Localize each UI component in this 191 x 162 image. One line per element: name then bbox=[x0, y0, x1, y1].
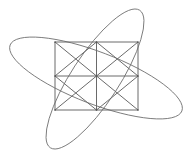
vertex-bottom-mid bbox=[96, 109, 98, 111]
vertex-bottom-right bbox=[137, 109, 139, 111]
vertex-top-mid bbox=[96, 41, 98, 43]
square-grid-with-diagonals bbox=[54, 41, 139, 111]
vertex-right-mid bbox=[137, 75, 139, 77]
vertex-top-left bbox=[54, 41, 56, 43]
vertex-left-mid bbox=[54, 75, 56, 77]
vertex-top-right bbox=[137, 41, 139, 43]
geometric-figure: Geometric line figure: tiled square grid… bbox=[0, 0, 191, 162]
canvas-background bbox=[0, 0, 191, 162]
vertex-center bbox=[96, 75, 98, 77]
vertex-bottom-left bbox=[54, 109, 56, 111]
